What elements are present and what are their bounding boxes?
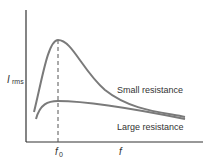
y-axis-label-main: I — [7, 74, 10, 85]
x-axis-label: f — [119, 146, 123, 157]
y-axis-label-sub: rms — [12, 78, 24, 85]
small-resistance-label: Small resistance — [117, 85, 183, 95]
resonance-chart: Small resistance Large resistance I rms … — [0, 0, 205, 165]
large-resistance-label: Large resistance — [117, 122, 184, 132]
f0-tick-label-sub: 0 — [59, 151, 63, 158]
